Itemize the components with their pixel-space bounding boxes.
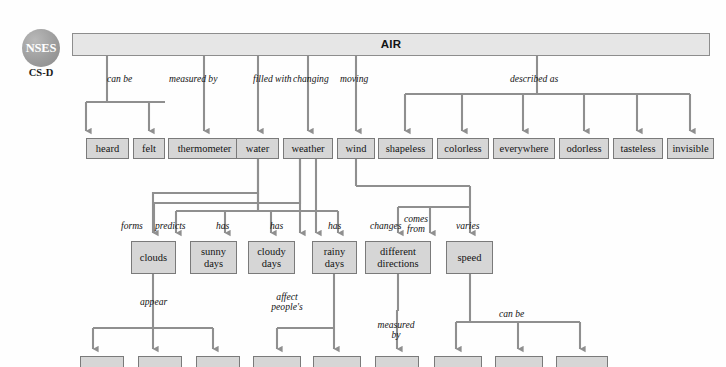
concept-node-label: everywhere	[500, 143, 549, 154]
nses-logo-text: NSES	[26, 41, 56, 56]
concept-node-label: shapeless	[386, 143, 426, 154]
concept-node-odorless: odorless	[559, 138, 609, 159]
concept-node-sunnydays: sunny days	[190, 241, 237, 274]
concept-node-label: thermometer	[178, 143, 232, 154]
concept-node-label: rainy days	[324, 246, 346, 269]
concept-node-label: clouds	[140, 252, 167, 263]
concept-node-label: wind	[346, 143, 367, 154]
concept-node-b1	[80, 356, 124, 367]
edge-label-forms: forms	[121, 221, 143, 231]
concept-node-b3	[196, 356, 240, 367]
concept-node-thermometer: thermometer	[168, 138, 241, 159]
edge-label-has-2: has	[270, 221, 283, 231]
concept-map-canvas: NSES CS-D AIR heardfeltthermometerwaterw…	[0, 0, 726, 367]
concept-node-directions: different directions	[365, 241, 431, 274]
concept-node-colorless: colorless	[437, 138, 489, 159]
edge-label-changing: changing	[293, 74, 329, 84]
concept-node-heard: heard	[86, 138, 129, 159]
nses-standard-code: CS-D	[22, 67, 60, 78]
edge-label-has-3: has	[328, 221, 341, 231]
concept-node-label: sunny days	[201, 246, 226, 269]
concept-node-b6	[375, 356, 419, 367]
concept-node-label: speed	[458, 252, 482, 263]
edge-label-varies: varies	[456, 221, 479, 231]
concept-node-everywhere: everywhere	[493, 138, 555, 159]
concept-node-shapeless: shapeless	[378, 138, 433, 159]
edge-label-comes-from: comes from	[386, 214, 446, 234]
concept-node-label: felt	[142, 143, 156, 154]
edge-label-affect-peoples: affect people's	[257, 292, 317, 312]
concept-node-invisible: invisible	[667, 138, 714, 159]
concept-node-label: water	[246, 143, 269, 154]
edge-label-can-be-2: can be	[499, 309, 524, 319]
edge-label-moving: moving	[340, 74, 368, 84]
nses-logo: NSES	[22, 29, 60, 67]
concept-node-label: odorless	[567, 143, 602, 154]
edge-label-described-as: described as	[510, 74, 558, 84]
edge-label-measured-by-1: measured by	[169, 74, 217, 84]
concept-node-rainydays: rainy days	[312, 241, 357, 274]
concept-node-tasteless: tasteless	[613, 138, 663, 159]
concept-node-air: AIR	[72, 33, 710, 56]
concept-node-wind: wind	[337, 138, 375, 159]
edge-label-measured-by-2: measured by	[366, 320, 426, 340]
concept-node-b9	[556, 356, 608, 367]
edge-label-appear: appear	[140, 297, 167, 307]
concept-node-clouds: clouds	[131, 241, 176, 274]
concept-node-label: heard	[96, 143, 119, 154]
edge-label-can-be-1: can be	[107, 74, 132, 84]
concept-node-label: AIR	[381, 38, 402, 50]
concept-node-b5	[313, 356, 361, 367]
concept-node-speed: speed	[446, 241, 493, 274]
concept-node-label: colorless	[444, 143, 481, 154]
concept-node-label: invisible	[672, 143, 708, 154]
concept-node-label: cloudy days	[257, 246, 286, 269]
concept-node-b8	[495, 356, 543, 367]
concept-node-weather: weather	[283, 138, 333, 159]
concept-node-label: tasteless	[621, 143, 656, 154]
concept-node-label: different directions	[377, 246, 418, 269]
concept-node-water: water	[236, 138, 279, 159]
concept-node-b4	[253, 356, 301, 367]
concept-node-cloudydays: cloudy days	[248, 241, 295, 274]
concept-node-label: weather	[291, 143, 324, 154]
concept-node-b7	[434, 356, 482, 367]
edge-label-predicts: predicts	[155, 221, 186, 231]
concept-node-b2	[138, 356, 182, 367]
concept-node-felt: felt	[133, 138, 165, 159]
edge-label-has-1: has	[216, 221, 229, 231]
edge-label-filled-with: filled with	[253, 74, 292, 84]
